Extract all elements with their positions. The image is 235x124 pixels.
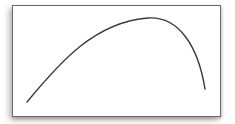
curve-line: [27, 18, 205, 102]
curve-plot: [0, 0, 235, 124]
